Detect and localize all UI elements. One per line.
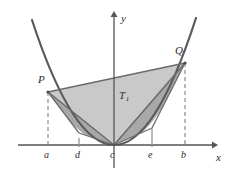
tick-label-e: e [148,150,152,160]
point-label-q: Q [175,45,183,56]
x-axis-arrowhead [212,142,218,149]
parabola-figure-svg [0,0,229,175]
region-label-t1-base: T [119,89,125,101]
point-dot-p [46,90,49,93]
point-label-p: P [38,74,45,85]
tick-label-a: a [44,150,49,160]
tick-label-c: c [110,150,114,160]
region-label-t1-subscript: 1 [126,95,130,103]
y-axis-label: y [121,13,126,24]
tick-label-b: b [181,150,186,160]
tick-label-d: d [75,150,80,160]
point-dot-q [183,61,186,64]
x-axis-label: x [216,152,221,163]
y-axis-arrowhead [111,11,118,17]
region-label-t1: T1 [119,90,129,103]
figure-container: y x P Q T1 a d c e b [0,0,229,175]
